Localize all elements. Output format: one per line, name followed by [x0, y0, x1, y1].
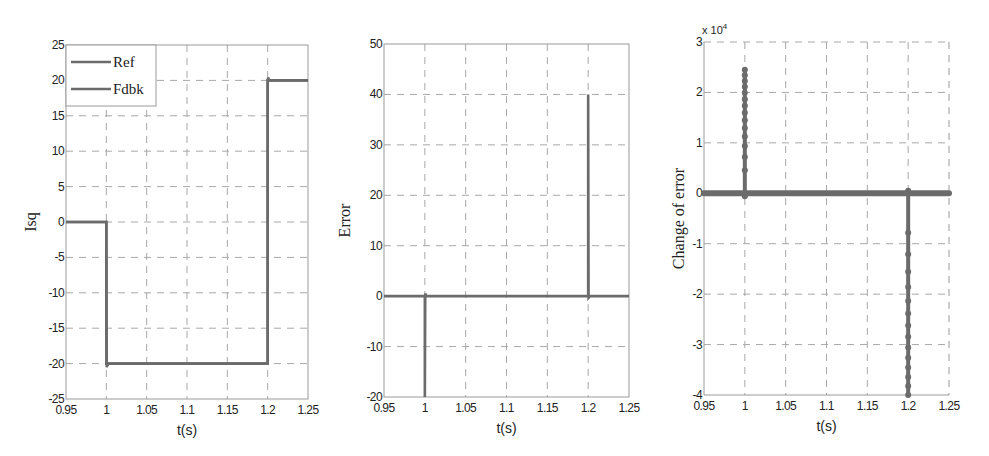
data-marker	[905, 355, 911, 361]
y-tick-label: -4	[693, 388, 703, 402]
grid	[704, 42, 949, 395]
y-tick-label: 30	[370, 138, 383, 152]
data-marker	[905, 188, 911, 194]
x-tick-label: 1.2	[581, 401, 597, 415]
y-tick-label: 40	[370, 87, 383, 101]
x-tick-label: 1.1	[180, 403, 196, 417]
error-plot: 0.9511.051.11.151.21.25-20-1001020304050…	[336, 37, 640, 436]
data-marker	[742, 117, 748, 123]
y-tick-label: -1	[693, 237, 703, 251]
data-marker	[905, 311, 911, 317]
y-tick-label: 25	[52, 38, 65, 52]
y-tick-label: -15	[48, 321, 64, 335]
data-marker	[905, 323, 911, 329]
change-of-error-plot: 0.9511.051.11.151.21.25-4-3-2-10123t(s)C…	[670, 22, 960, 434]
y-tick-label: 20	[52, 73, 65, 87]
data-marker	[742, 134, 748, 140]
data-marker	[742, 78, 748, 84]
data-marker	[742, 143, 748, 149]
data-marker	[742, 167, 748, 173]
y-tick-label: -20	[366, 390, 382, 404]
data-marker	[742, 96, 748, 102]
x-tick-label: 1.1	[819, 399, 835, 413]
y-axis-label: Isq	[22, 212, 40, 232]
x-tick-label: 1.05	[455, 401, 477, 415]
x-tick-label: 1	[422, 401, 429, 415]
data-marker	[742, 67, 748, 73]
x-tick-label: 1.25	[619, 401, 641, 415]
data-marker	[742, 72, 748, 78]
legend: RefFdbk	[66, 45, 156, 106]
y-tick-label: 15	[52, 109, 65, 123]
x-tick-label: 1.1	[499, 401, 515, 415]
x-tick-label: 1.05	[775, 399, 797, 413]
legend-label: Fdbk	[113, 81, 144, 97]
data-marker	[905, 364, 911, 370]
isq-plot: 0.9511.051.11.151.21.25-25-20-15-10-5051…	[22, 38, 319, 438]
data-marker	[905, 374, 911, 380]
x-tick-label: 1	[742, 399, 749, 413]
x-tick-label: 1.15	[537, 401, 559, 415]
y-tick-label: -25	[48, 392, 64, 406]
y-tick-label: -2	[693, 287, 703, 301]
x-tick-label: 1.25	[939, 399, 961, 413]
data-marker	[905, 344, 911, 350]
data-marker	[742, 110, 748, 116]
legend-label: Ref	[113, 54, 135, 70]
x-axis-label: t(s)	[177, 422, 197, 438]
x-tick-label: 1.25	[298, 403, 320, 417]
y-tick-label: 1	[696, 136, 703, 150]
y-tick-label: 0	[376, 289, 383, 303]
y-tick-label: 50	[370, 37, 383, 51]
x-tick-label: 1.15	[217, 403, 239, 417]
data-marker	[905, 298, 911, 304]
data-marker	[742, 154, 748, 160]
grid	[384, 44, 629, 397]
y-tick-label: -5	[55, 250, 65, 264]
y-tick-label: -3	[693, 338, 703, 352]
data-marker	[905, 251, 911, 257]
y-multiplier-label: x 104	[702, 22, 728, 36]
y-tick-label: 0	[58, 215, 65, 229]
data-marker	[905, 383, 911, 389]
y-tick-label: -20	[48, 357, 64, 371]
data-marker	[905, 392, 911, 398]
y-tick-label: 10	[52, 144, 65, 158]
data-marker	[742, 125, 748, 131]
y-tick-label: 2	[696, 85, 703, 99]
y-tick-label: -10	[48, 286, 64, 300]
scatter-series	[704, 67, 949, 398]
data-marker	[905, 284, 911, 290]
y-tick-label: 10	[370, 239, 383, 253]
x-tick-label: 1	[103, 403, 110, 417]
y-tick-label: 3	[696, 35, 703, 49]
x-tick-label: 1.2	[901, 399, 917, 413]
x-axis-label: t(s)	[496, 420, 516, 436]
data-marker	[742, 90, 748, 96]
y-axis-label: Error	[336, 203, 353, 237]
data-marker	[905, 230, 911, 236]
y-tick-label: 5	[58, 180, 65, 194]
data-marker	[905, 334, 911, 340]
y-tick-label: 20	[370, 188, 383, 202]
data-marker	[742, 103, 748, 109]
x-tick-label: 1.05	[136, 403, 158, 417]
exponent: 4	[723, 22, 728, 31]
data-marker	[742, 193, 748, 199]
y-tick-label: -10	[366, 340, 382, 354]
figure: 0.9511.051.11.151.21.25-25-20-15-10-5051…	[0, 0, 989, 456]
x-tick-label: 1.15	[857, 399, 879, 413]
data-marker	[905, 269, 911, 275]
y-axis-label: Change of error	[670, 167, 688, 269]
data-marker	[742, 84, 748, 90]
x-tick-label: 1.2	[260, 403, 276, 417]
x-axis-label: t(s)	[816, 418, 836, 434]
